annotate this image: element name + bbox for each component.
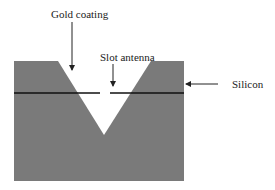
gold-coating-label: Gold coating	[51, 8, 109, 20]
slot-antenna-label: Slot antenna	[100, 51, 155, 63]
v-groove-slot-antenna-diagram: Gold coating Slot antenna Silicon	[0, 0, 275, 190]
silicon-label: Silicon	[232, 78, 264, 90]
